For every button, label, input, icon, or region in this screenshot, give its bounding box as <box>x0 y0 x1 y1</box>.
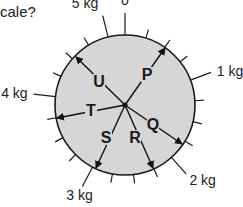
spring-balance-diagram: cale? 01 kg2 kg3 kg4 kg5 kg PQRSTU <box>0 0 243 207</box>
scale-label-5: 5 kg <box>72 0 98 11</box>
vector-label-s: S <box>101 129 112 146</box>
minor-tick <box>53 73 61 77</box>
minor-tick <box>66 53 73 59</box>
vector-label-r: R <box>129 129 141 146</box>
vector-label-u: U <box>93 73 105 90</box>
minor-tick <box>134 174 135 183</box>
scale-label-2: 2 kg <box>189 172 215 188</box>
center-pivot-dot <box>122 102 127 107</box>
scale-label-0: 0 <box>121 0 129 8</box>
major-tick <box>34 94 56 97</box>
vector-label-p: P <box>142 66 153 83</box>
minor-tick <box>47 118 56 120</box>
minor-tick <box>69 155 75 161</box>
dial-svg: 01 kg2 kg3 kg4 kg5 kg PQRSTU <box>0 0 243 207</box>
scale-label-4: 4 kg <box>1 85 27 101</box>
minor-tick <box>55 138 63 142</box>
minor-tick <box>185 141 193 146</box>
minor-tick <box>111 174 113 183</box>
minor-tick <box>146 30 149 39</box>
minor-tick <box>154 169 158 177</box>
major-tick <box>171 157 186 173</box>
minor-tick <box>84 37 89 45</box>
major-tick <box>190 72 211 80</box>
major-tick <box>82 167 92 186</box>
minor-tick <box>193 122 202 124</box>
scale-label-3: 3 kg <box>66 187 92 203</box>
scale-label-1: 1 kg <box>217 63 243 79</box>
minor-tick <box>180 56 187 62</box>
major-tick <box>103 16 108 37</box>
vector-label-q: Q <box>147 116 159 133</box>
minor-tick <box>195 100 204 101</box>
minor-tick <box>165 40 170 47</box>
vector-label-t: T <box>86 102 96 119</box>
